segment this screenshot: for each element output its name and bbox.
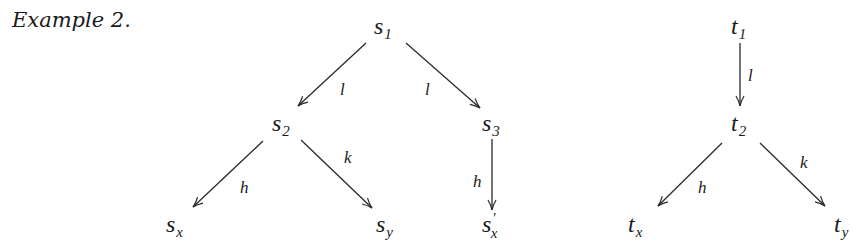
edge-s1-s3-arrow-icon	[406, 43, 480, 108]
edge-label-s3-sx_prime: h	[473, 172, 482, 191]
node-tx: tx	[628, 211, 643, 240]
node-sx: sx	[166, 211, 183, 240]
edge-t2-ty-arrow-icon	[760, 143, 825, 206]
node-s1: s1	[374, 13, 392, 42]
node-sy: sy	[376, 211, 393, 240]
node-ty: ty	[834, 211, 849, 240]
edge-label-t2-ty: k	[800, 153, 808, 172]
edge-label-s2-sx: h	[240, 178, 249, 197]
transition-diagram: llhkhlhk s1s2s3sxsys′xt1t2txty	[0, 0, 863, 248]
edge-label-s1-s3: l	[425, 80, 430, 99]
node-sx_prime: s′x	[482, 210, 498, 241]
edge-label-s2-sy: k	[344, 148, 352, 167]
node-s3: s3	[482, 110, 500, 139]
node-t1: t1	[731, 13, 746, 42]
edge-label-t1-t2: l	[748, 66, 753, 85]
edge-s2-sx-arrow-icon	[193, 141, 263, 207]
edge-s2-sy-arrow-icon	[301, 140, 372, 208]
node-t2: t2	[731, 110, 747, 139]
edge-s1-s2-arrow-icon	[298, 43, 366, 106]
edge-label-t2-tx: h	[698, 178, 707, 197]
edge-label-s1-s2: l	[340, 80, 345, 99]
node-s2: s2	[272, 110, 290, 139]
nodes-layer: s1s2s3sxsys′xt1t2txty	[166, 13, 849, 241]
edge-t2-tx-arrow-icon	[658, 143, 722, 206]
